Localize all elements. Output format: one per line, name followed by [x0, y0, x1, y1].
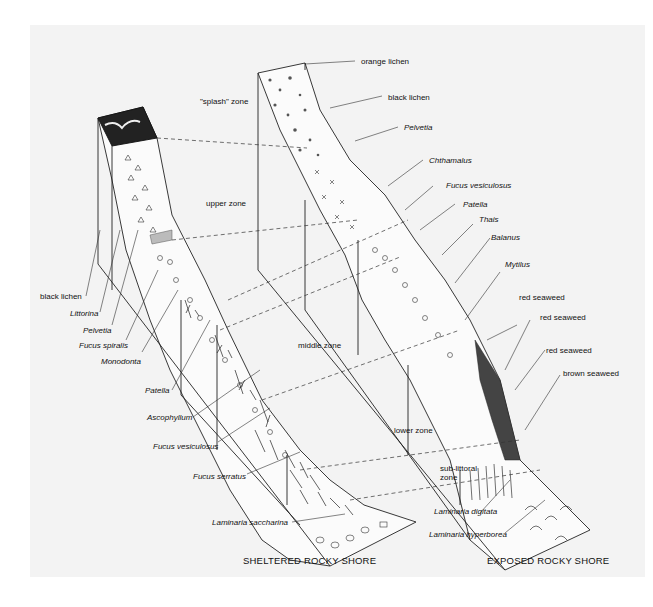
- exposed-label-pelvetia: Pelvetia: [404, 123, 432, 133]
- sheltered-shore-strip: [98, 107, 416, 566]
- exposed-label-chthamalus: Chthamalus: [429, 156, 472, 166]
- sheltered-label-fucus-vesiculosus: Fucus vesiculosus: [153, 442, 218, 452]
- sheltered-label-ascophyllum: Ascophyllum: [147, 413, 192, 423]
- zone-label-lower: lower zone: [394, 426, 433, 436]
- sheltered-label-monodonta: Monodonta: [101, 357, 141, 367]
- exposed-label-thais: Thais: [479, 215, 499, 225]
- zone-label-upper: upper zone: [206, 199, 246, 209]
- sheltered-label-patella: Patella: [145, 386, 169, 396]
- exposed-label-red-seaweed-1: red seaweed: [519, 293, 565, 303]
- exposed-label-fucus-vesiculosus: Fucus vesiculosus: [446, 181, 511, 191]
- exposed-label-red-seaweed-3: red seaweed: [546, 346, 592, 356]
- exposed-label-black-lichen: black lichen: [388, 93, 430, 103]
- exposed-label-orange-lichen: orange lichen: [361, 57, 409, 67]
- sheltered-shore-title: SHELTERED ROCKY SHORE: [243, 555, 376, 566]
- zone-label-sublittoral-2: zone: [440, 473, 457, 483]
- exposed-label-mytilus: Mytilus: [505, 260, 530, 270]
- sheltered-label-laminaria-saccharina: Laminaria saccharina: [212, 518, 288, 528]
- zone-label-splash: "splash" zone: [200, 97, 248, 107]
- sheltered-label-fucus-serratus: Fucus serratus: [193, 472, 246, 482]
- exposed-shore-title: EXPOSED ROCKY SHORE: [487, 555, 609, 566]
- exposed-label-red-seaweed-2: red seaweed: [540, 313, 586, 323]
- sheltered-label-littorina: Littorina: [70, 309, 98, 319]
- exposed-label-balanus: Balanus: [491, 233, 520, 243]
- zone-label-middle: middle zone: [298, 341, 341, 351]
- exposed-label-patella: Patella: [463, 200, 487, 210]
- exposed-label-laminaria-digitata: Laminaria digitata: [434, 507, 497, 517]
- exposed-label-laminaria-hyperborea: Laminaria hyperborea: [429, 530, 507, 540]
- sheltered-label-pelvetia: Pelvetia: [83, 326, 111, 336]
- sheltered-label-black-lichen: black lichen: [40, 292, 82, 302]
- sheltered-label-fucus-spiralis: Fucus spiralis: [79, 341, 128, 351]
- rocky-shore-diagram: [0, 0, 653, 607]
- exposed-label-brown-seaweed: brown seaweed: [563, 369, 619, 379]
